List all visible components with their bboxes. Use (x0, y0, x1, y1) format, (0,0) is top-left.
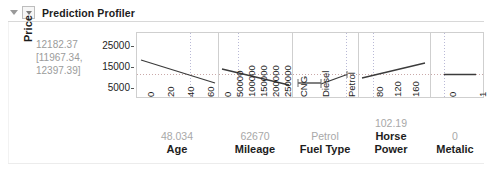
factor-age[interactable]: 48.034 Age (136, 130, 218, 156)
profile-panel-metalic[interactable] (430, 33, 484, 97)
factor-value-age[interactable]: 48.034 (136, 130, 218, 143)
factor-value-mileage[interactable]: 62670 (218, 130, 292, 143)
x-tick-label: 20 (165, 86, 176, 97)
x-tick-label: 80 (374, 86, 385, 97)
y-tick-label: 25000 (102, 40, 130, 51)
y-axis-label: Price (22, 15, 34, 42)
factor-mileage[interactable]: 62670 Mileage (218, 130, 292, 156)
x-tick-label: CNG (298, 76, 309, 97)
prediction-profiler-window: Prediction Profiler Price 12182.37 [1196… (0, 0, 493, 171)
ci-upper: 12397.39] (36, 64, 96, 77)
x-tick-label: 120 (392, 81, 403, 97)
factor-horse-power[interactable]: Horse Power (358, 130, 424, 156)
window-bottom-rule (8, 163, 484, 164)
factor-name-horse-power-line1: Horse (358, 130, 424, 143)
panel-titlebar: Prediction Profiler (8, 4, 484, 22)
x-tick-label: 60 (205, 86, 216, 97)
x-tick-label: 0 (447, 92, 458, 97)
predicted-value: 12182.37 (36, 38, 96, 51)
y-tick-label: 5000 (108, 82, 130, 93)
factor-name-metalic: Metalic (424, 143, 486, 156)
factor-name-mileage: Mileage (218, 143, 292, 156)
factor-name-fuel-type: Fuel Type (290, 143, 360, 156)
factor-name-age: Age (136, 143, 218, 156)
profile-plot-metalic[interactable] (431, 33, 484, 97)
factor-value-fuel-type[interactable]: Petrol (290, 130, 360, 143)
ci-lower: [11967.34, (36, 51, 96, 64)
factor-name-horse-power-line2: Power (358, 143, 424, 156)
panel-title: Prediction Profiler (42, 7, 135, 19)
x-tick-label: 0 (145, 92, 156, 97)
x-tick-label: Petrol (346, 72, 357, 97)
x-tick-label: 100000 (246, 65, 257, 97)
x-tick-label: 200000 (270, 65, 281, 97)
x-tick-label: 1 (477, 92, 488, 97)
y-axis-ticks: 25000 15000 5000 (95, 38, 133, 96)
factor-value-horse-power[interactable]: 102.19 (358, 117, 424, 130)
x-tick-label: 40 (185, 86, 196, 97)
x-tick-label: Diesel (320, 71, 331, 97)
x-tick-label: 0 (222, 92, 233, 97)
predicted-value-block: 12182.37 [11967.34, 12397.39] (36, 38, 96, 77)
triangle-down-icon[interactable] (10, 10, 18, 15)
y-tick-label: 15000 (102, 61, 130, 72)
x-tick-label: 50000 (234, 71, 245, 97)
x-tick-label: 150000 (258, 65, 269, 97)
factor-fuel-type[interactable]: Petrol Fuel Type (290, 130, 360, 156)
factor-metalic[interactable]: 0 Metalic (424, 130, 486, 156)
x-tick-label: 250000 (282, 65, 293, 97)
factor-value-metalic[interactable]: 0 (424, 130, 486, 143)
x-tick-label: 160 (410, 81, 421, 97)
window-left-rule (8, 4, 9, 164)
